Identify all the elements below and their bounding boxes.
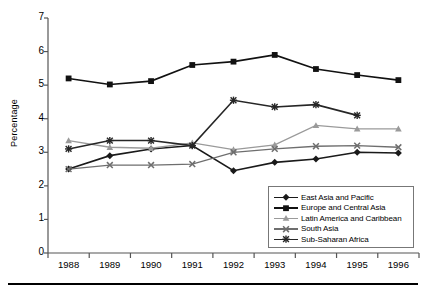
y-tick-label: 7 [22,12,44,22]
asterisk-marker-icon [274,234,298,244]
x-tick-label: 1988 [49,259,89,270]
x-marker-icon [274,224,298,234]
x-tick-label: 1989 [90,259,130,270]
y-axis-title: Percentage [9,83,19,163]
diamond-marker-icon [274,192,298,202]
y-tick-label: 2 [22,180,44,190]
y-tick-label: 1 [22,213,44,223]
legend-label: East Asia and Pacific [298,193,374,202]
x-tick-label: 1993 [255,259,295,270]
series-europe-and-central-asia [66,52,402,87]
x-tick-label: 1990 [131,259,171,270]
y-tick-label: 0 [22,247,44,257]
y-tick-label: 6 [22,46,44,56]
legend-item: East Asia and Pacific [274,192,409,203]
square-marker-icon [274,203,298,213]
legend-item: Sub-Saharan Africa [274,234,409,245]
x-tick-label: 1994 [296,259,336,270]
y-tick-label: 4 [22,113,44,123]
legend-item: Europe and Central Asia [274,203,409,214]
plot-area [0,0,426,296]
legend-label: Sub-Saharan Africa [298,235,369,244]
triangle-marker-icon [274,213,298,223]
legend-item: Latin America and Caribbean [274,213,409,224]
y-tick-label: 5 [22,79,44,89]
legend-item: South Asia [274,224,409,235]
legend-label: South Asia [298,224,338,233]
legend-label: Europe and Central Asia [298,203,385,212]
x-tick-label: 1995 [337,259,377,270]
series-latin-america-and-caribbean [65,122,401,152]
x-tick-label: 1991 [172,259,212,270]
footer-rule [8,283,418,285]
x-tick-label: 1996 [378,259,418,270]
x-tick-label: 1992 [214,259,254,270]
legend-label: Latin America and Caribbean [298,214,401,223]
y-tick-label: 3 [22,146,44,156]
line-chart-figure: Percentage 01234567 19881989199019911992… [0,0,426,296]
legend: East Asia and PacificEurope and Central … [268,186,414,248]
